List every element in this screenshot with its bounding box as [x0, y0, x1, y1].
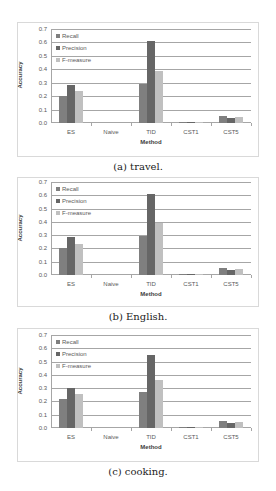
y-tick-label: 0.1 — [29, 412, 47, 418]
bar-recall-cst5 — [219, 421, 227, 428]
bar-fmeasure-es — [75, 394, 83, 428]
y-tick-label: 0.3 — [29, 385, 47, 391]
legend-item: F-measure — [56, 360, 91, 372]
bar-recall-tid — [139, 392, 147, 428]
x-category-label: Naive — [91, 434, 131, 440]
x-category-label: TID — [131, 434, 171, 440]
bar-precision-es — [67, 388, 75, 428]
y-axis-line — [51, 335, 52, 428]
chart-figure: 0.00.10.20.30.40.50.60.7ESNaiveTIDCST1CS… — [0, 0, 276, 491]
bar-recall-es — [59, 399, 67, 428]
legend-label: Recall — [62, 339, 79, 345]
legend-item: Precision — [56, 348, 91, 360]
bar-fmeasure-cst5 — [235, 422, 243, 428]
x-axis-title: Method — [121, 444, 181, 450]
chart-legend: RecallPrecisionF-measure — [56, 336, 91, 372]
legend-item: Recall — [56, 336, 91, 348]
x-tick-mark — [171, 428, 172, 431]
y-tick-label: 0.7 — [29, 332, 47, 338]
bar-fmeasure-tid — [155, 380, 163, 428]
y-axis-title: Accuracy — [17, 361, 23, 401]
bar-precision-cst5 — [227, 423, 235, 428]
y-tick-label: 0.5 — [29, 359, 47, 365]
y-tick-label: 0.0 — [29, 425, 47, 431]
x-tick-mark — [211, 428, 212, 431]
legend-label: Precision — [62, 351, 87, 357]
legend-swatch-icon — [56, 364, 60, 368]
x-tick-mark — [91, 428, 92, 431]
bar-fmeasure-cst1 — [195, 427, 203, 428]
legend-swatch-icon — [56, 352, 60, 356]
legend-label: F-measure — [62, 363, 91, 369]
y-tick-label: 0.4 — [29, 372, 47, 378]
x-category-label: ES — [51, 434, 91, 440]
x-category-label: CST5 — [211, 434, 251, 440]
bar-recall-cst1 — [179, 427, 187, 428]
x-tick-mark — [131, 428, 132, 431]
figure-caption: (c) cooking. — [0, 466, 276, 477]
y-tick-label: 0.2 — [29, 398, 47, 404]
y-tick-label: 0.6 — [29, 345, 47, 351]
x-category-label: CST1 — [171, 434, 211, 440]
bar-precision-tid — [147, 355, 155, 428]
bar-precision-cst1 — [187, 427, 195, 428]
x-tick-mark — [251, 428, 252, 431]
legend-swatch-icon — [56, 340, 60, 344]
